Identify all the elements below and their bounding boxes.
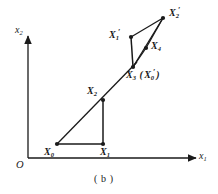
point-label-x2: X2: [87, 86, 97, 96]
y-axis-label: x2: [15, 25, 23, 35]
point-marker-x0: [55, 142, 59, 146]
point-label-x3-x0prime: X3 (X0′): [126, 70, 161, 80]
point-label-x2-prime: X2′: [169, 8, 181, 18]
point-marker-x4: [144, 46, 148, 50]
segment-x0-x3-diagonal: [57, 62, 137, 144]
figure-panel: x2 x1 O X0 X1 X2 X3 (X0′) X4 X1′ X2′ ( b…: [0, 0, 218, 194]
point-marker-x2: [101, 98, 105, 102]
point-marker-x2-prime: [161, 16, 165, 20]
origin-label: O: [16, 160, 24, 171]
point-label-x1-prime: X1′: [109, 30, 121, 40]
point-label-x4: X4: [151, 41, 161, 51]
x-axis-label: x1: [199, 151, 207, 161]
figure-caption: ( b ): [94, 174, 114, 184]
point-label-x1: X1: [100, 147, 110, 157]
segment-x3-x1prime: [131, 37, 133, 67]
point-marker-x1-prime: [129, 35, 133, 39]
point-label-x0: X0: [44, 147, 54, 157]
